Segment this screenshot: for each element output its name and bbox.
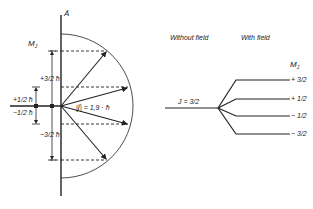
sublevel-label: − 3/2 (291, 130, 307, 137)
label-minus-one-half: −1/2 ħ (13, 109, 33, 116)
vector-magnitude-label: |J⃗| = 1,9 · ħ (76, 103, 110, 112)
axis-label: Ā (63, 9, 69, 18)
zeeman-diagram: Ā MJ +3/2 ħ +1/2 ħ −1/2 ħ −3/2 ħ |J⃗| = … (0, 0, 313, 209)
sublevel-plus-three-halves (218, 80, 290, 108)
sublevel-minus-one-half (218, 108, 290, 116)
sublevel-minus-three-halves (218, 108, 290, 134)
vector-minus-three-halves (61, 106, 106, 159)
mj-label-left: MJ (28, 39, 38, 49)
dimension-node (34, 104, 38, 108)
mj-label-right: MJ (290, 60, 300, 70)
dimension-node (50, 104, 54, 108)
energy-level-diagram: Without field With field J = 3/2 MJ + 3/… (165, 34, 307, 137)
level-label: J = 3/2 (177, 98, 199, 105)
sublevel-label: + 3/2 (291, 76, 307, 83)
heading-without-field: Without field (170, 34, 210, 41)
vector-plus-three-halves (61, 52, 106, 106)
vector-model-diagram: Ā MJ +3/2 ħ +1/2 ħ −1/2 ħ −3/2 ħ |J⃗| = … (10, 9, 133, 196)
label-minus-three-halves: −3/2 ħ (40, 131, 60, 138)
label-plus-one-half: +1/2 ħ (13, 96, 33, 103)
sublevel-label: − 1/2 (291, 112, 307, 119)
sublevel-plus-one-half (218, 99, 290, 108)
label-plus-three-halves: +3/2 ħ (40, 75, 60, 82)
sublevel-label: + 1/2 (291, 95, 307, 102)
heading-with-field: With field (241, 34, 271, 41)
